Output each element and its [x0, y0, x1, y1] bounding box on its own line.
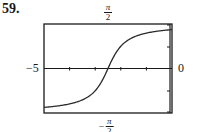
plot-area — [0, 0, 198, 132]
